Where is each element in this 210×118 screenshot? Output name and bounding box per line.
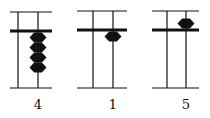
abacus-label-2: 1 — [109, 98, 117, 111]
abacus-label-1: 4 — [34, 98, 42, 111]
earth-bead — [30, 43, 47, 53]
earth-bead — [30, 33, 47, 43]
earth-bead — [105, 32, 122, 42]
abacus-figure: 4 1 5 — [0, 0, 210, 118]
abacus-label-3: 5 — [182, 98, 190, 111]
abacus-drawing — [0, 0, 210, 118]
heaven-bead — [178, 19, 195, 29]
earth-bead — [30, 63, 47, 73]
earth-bead — [30, 53, 47, 63]
